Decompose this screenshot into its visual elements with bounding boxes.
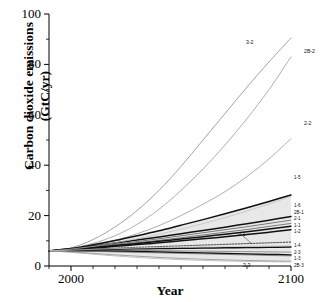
curve-label-1-6: 1-6 (294, 203, 301, 208)
curve-label-1-4: 1-4 (294, 243, 301, 248)
x-tick-label: 2000 (41, 271, 101, 287)
curve-label-1-1: 1-1 (294, 223, 301, 228)
curve-label-1-5: 1-5 (294, 175, 301, 180)
curve-label-2B-1: 2B-1 (294, 210, 304, 215)
y-tick-label: 80 (1, 56, 41, 72)
curve-label-3-2: 3-2 (246, 40, 254, 45)
curve-label-2-1: 2-1 (294, 216, 301, 221)
curve-label-1-2: 1-2 (294, 229, 301, 234)
y-tick-label: 40 (1, 157, 41, 173)
curve-label-2B-2: 2B-2 (304, 49, 315, 54)
y-tick-label: 20 (1, 208, 41, 224)
curve-label-2B-3: 2B-3 (294, 263, 304, 268)
curve-label-3-1: 3-1 (238, 232, 246, 237)
y-tick-label: 0 (1, 258, 41, 274)
y-tick-label: 60 (1, 107, 41, 123)
x-tick-label: 2100 (261, 271, 321, 287)
curve-label-3-3: 3-3 (243, 263, 251, 268)
curve-label-2-2: 2-2 (304, 121, 312, 126)
co2-emissions-chart: Carbon dioxide emissions (GtC/yr) Year 0… (0, 0, 322, 302)
y-tick-label: 100 (1, 6, 41, 22)
curve-label-2-3: 2-3 (294, 250, 301, 255)
curve-label-1-3: 1-3 (294, 256, 301, 261)
